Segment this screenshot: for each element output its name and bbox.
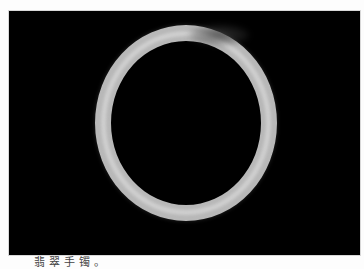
bracelet-photo [8,10,361,256]
bangle-highlight [101,31,271,215]
bangle-shadow-spot [189,25,249,45]
figure-caption: 翡翠手镯。 [34,256,109,269]
